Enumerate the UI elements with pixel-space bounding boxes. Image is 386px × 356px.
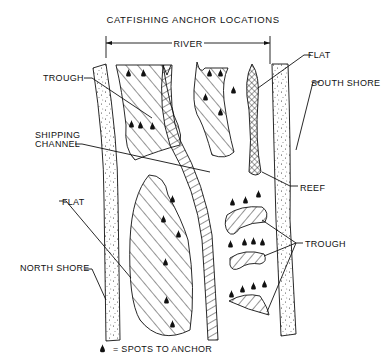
lower-flat — [130, 175, 193, 336]
trough-right-3 — [229, 295, 269, 315]
label-trough-upper: TROUGH — [43, 73, 84, 83]
anchor-spot-icon — [100, 344, 105, 352]
trough-right-1 — [225, 207, 267, 235]
trough-right-2 — [230, 252, 265, 270]
north-shore — [93, 64, 120, 341]
catfishing-diagram: CATFISHING ANCHOR LOCATIONS RIVER — [0, 0, 386, 356]
diagram-title: CATFISHING ANCHOR LOCATIONS — [106, 14, 279, 25]
river-label: RIVER — [173, 39, 202, 49]
legend: = SPOTS TO ANCHOR — [100, 344, 212, 354]
label-shipping-2: CHANNEL — [35, 139, 80, 149]
label-flat-right: FLAT — [308, 50, 331, 60]
label-trough-right: TROUGH — [305, 239, 346, 249]
reef — [247, 64, 261, 175]
upper-flat — [194, 62, 234, 157]
river-dimension: RIVER — [106, 36, 270, 64]
legend-text: = SPOTS TO ANCHOR — [113, 344, 212, 354]
label-reef: REEF — [300, 183, 325, 193]
label-north-shore: NORTH SHORE — [20, 263, 90, 273]
label-flat-left: FLAT — [62, 197, 85, 207]
south-shore — [272, 64, 296, 336]
label-south-shore: SOUTH SHORE — [311, 78, 380, 88]
